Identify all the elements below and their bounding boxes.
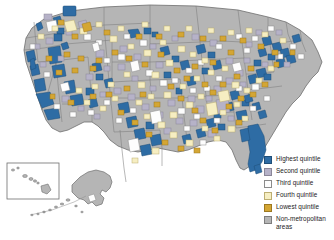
legend-swatch-third-quintile bbox=[264, 180, 272, 188]
legend-item-non-metropolitan-areas[interactable]: Non-metropolitan areas bbox=[264, 215, 334, 235]
figure-canvas: Highest quintile Second quintile Third q… bbox=[0, 0, 334, 240]
legend-swatch-non-metropolitan-areas bbox=[264, 216, 272, 224]
legend-item-fourth-quintile[interactable]: Fourth quintile bbox=[264, 191, 334, 203]
legend-swatch-highest-quintile bbox=[264, 156, 272, 164]
legend-swatch-second-quintile bbox=[264, 168, 272, 176]
legend-label-highest-quintile: Highest quintile bbox=[276, 155, 321, 163]
legend-swatch-lowest-quintile bbox=[264, 204, 272, 212]
legend-item-lowest-quintile[interactable]: Lowest quintile bbox=[264, 203, 334, 215]
legend-label-fourth-quintile: Fourth quintile bbox=[276, 191, 317, 199]
legend-label-third-quintile: Third quintile bbox=[276, 179, 313, 187]
hawaii-inset bbox=[7, 163, 59, 199]
legend-label-lowest-quintile: Lowest quintile bbox=[276, 203, 319, 211]
legend-label-second-quintile: Second quintile bbox=[276, 167, 320, 175]
map-legend: Highest quintile Second quintile Third q… bbox=[264, 155, 334, 235]
legend-item-third-quintile[interactable]: Third quintile bbox=[264, 179, 334, 191]
legend-item-second-quintile[interactable]: Second quintile bbox=[264, 167, 334, 179]
legend-label-non-metropolitan-areas: Non-metropolitan areas bbox=[276, 215, 326, 230]
legend-swatch-fourth-quintile bbox=[264, 192, 272, 200]
legend-item-highest-quintile[interactable]: Highest quintile bbox=[264, 155, 334, 167]
